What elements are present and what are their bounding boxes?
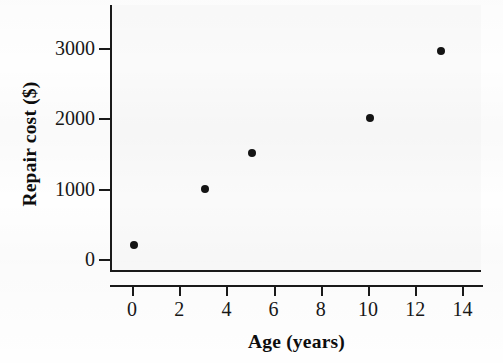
x-tick-mark <box>415 285 417 296</box>
x-tick-mark <box>462 285 464 296</box>
x-axis-line <box>110 285 483 287</box>
x-tick-label: 14 <box>432 299 492 319</box>
x-tick-mark <box>274 285 276 296</box>
x-tick-mark <box>132 285 134 296</box>
x-axis: 02468101214 Age (years) <box>0 0 503 363</box>
scatter-plot-figure: 0100020003000 Repair cost ($) 0246810121… <box>0 0 503 363</box>
x-tick-mark <box>321 285 323 296</box>
x-tick-mark <box>368 285 370 296</box>
x-tick-mark <box>226 285 228 296</box>
x-tick-mark <box>179 285 181 296</box>
x-axis-title: Age (years) <box>110 331 483 353</box>
